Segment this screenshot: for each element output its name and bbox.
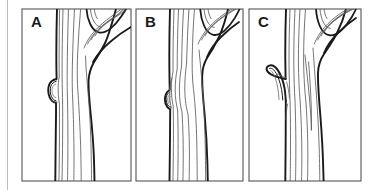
panel-a-frame: [22, 9, 131, 181]
figure-container: A B C: [0, 0, 379, 190]
panel-label-c: C: [258, 14, 269, 29]
panel-label-a: A: [31, 14, 42, 29]
figure-svg: [0, 0, 379, 190]
panel-a: [22, 9, 131, 181]
panel-label-b: B: [145, 14, 156, 29]
panel-c: [249, 9, 361, 181]
panel-b: [136, 9, 243, 181]
